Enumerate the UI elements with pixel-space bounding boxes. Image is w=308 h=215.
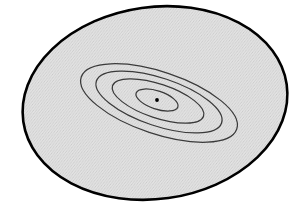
center-point (155, 98, 159, 102)
contour-diagram-svg (0, 0, 308, 215)
figure-root (0, 0, 308, 215)
